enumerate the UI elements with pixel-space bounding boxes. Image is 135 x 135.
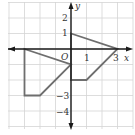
y-tick-label-2: 2 [62,13,68,23]
x-tick-label-1: 1 [84,53,90,63]
y-axis-up-arrow-icon [69,2,74,9]
figure-right [71,34,118,81]
y-tick-label-neg3: −3 [56,91,70,101]
x-axis-right-arrow-icon [126,47,133,52]
coordinate-plane: y x O 1 3 2 1 −3 −4 [0,0,135,135]
y-tick-label-1: 1 [62,28,68,38]
x-axis-label: x [124,53,129,63]
x-tick-label-3: 3 [113,53,119,63]
origin-label: O [61,52,69,62]
y-tick-label-neg4: −4 [56,107,70,117]
y-axis-label: y [74,1,81,11]
